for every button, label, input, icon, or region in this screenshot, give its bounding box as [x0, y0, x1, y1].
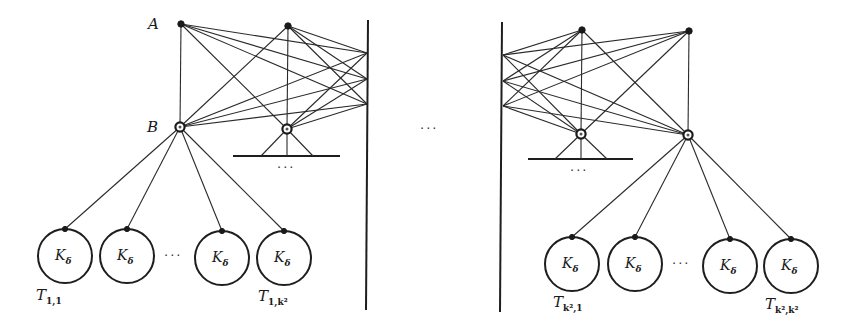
leaf-attach-node: [219, 228, 224, 233]
leaf-edge: [180, 127, 284, 231]
vertex-bottom-core: [286, 128, 289, 131]
leaf-edge: [127, 127, 180, 229]
edge: [288, 26, 367, 53]
label-node-a: A: [146, 15, 159, 33]
vertex-top: [686, 28, 692, 34]
leaf-attach-node: [124, 226, 129, 231]
vertical-walls: [366, 20, 502, 312]
edge: [503, 31, 689, 81]
leaf-edge: [180, 127, 222, 231]
edge: [287, 104, 367, 129]
tree-label: T1,k²: [258, 287, 288, 308]
edge: [288, 26, 367, 79]
vertex-top: [579, 27, 585, 33]
vertex-bottom-core: [179, 126, 182, 129]
graph-construction-diagram: KδKδKδKδKδKδKδKδ A B ··············· T1,…: [0, 0, 845, 333]
edge: [503, 30, 582, 55]
leaf-trees: KδKδKδKδKδKδKδKδ: [38, 229, 818, 293]
tree-labels: T1,1T1,k²Tk²,1Tk²,k²: [36, 286, 799, 316]
leaf-edge: [635, 135, 688, 237]
leaf-attach-node: [281, 228, 286, 233]
tree-label: Tk²,k²: [765, 295, 799, 316]
leaf-attach-node: [62, 226, 67, 231]
edge: [503, 31, 689, 55]
leaf-edge: [688, 135, 791, 239]
leaf-attach-node: [788, 236, 793, 241]
leaf-attach-node: [727, 236, 732, 241]
leaf-attach-node: [569, 234, 574, 239]
wall-line-2: [500, 22, 502, 312]
edge: [503, 30, 582, 81]
leaf-edge: [572, 135, 688, 237]
leaf-edge: [688, 135, 730, 239]
labels: A B: [146, 15, 159, 136]
ellipsis-between-groups: ···: [420, 121, 438, 136]
leaf-edge: [65, 127, 180, 229]
ellipsis-below-left-bar: ···: [277, 160, 295, 175]
vertex-top: [285, 23, 291, 29]
edge: [180, 79, 367, 127]
vertex-top: [178, 21, 184, 27]
vertex-bottom-core: [687, 134, 690, 137]
edge: [503, 106, 581, 134]
leaf-attach-node: [632, 234, 637, 239]
ellipsis-between-left-leaves: ···: [164, 248, 182, 263]
edge-cross: [581, 31, 689, 134]
tree-label: T1,1: [36, 286, 62, 307]
vertex-bottom-core: [580, 133, 583, 136]
label-node-b: B: [146, 118, 158, 136]
tree-label: Tk²,1: [553, 293, 583, 314]
edge-vertical: [180, 24, 181, 127]
edge-vertical: [688, 31, 689, 135]
edge-cross: [180, 26, 288, 127]
ellipsis-below-right-bar: ···: [570, 163, 588, 178]
wall-line-1: [366, 20, 368, 310]
ellipsis-between-right-leaves: ···: [672, 256, 690, 271]
